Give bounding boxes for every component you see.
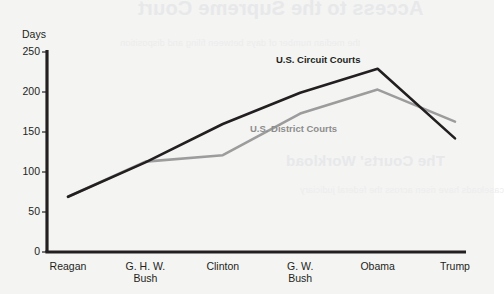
x-tick-label-trump: Trump [410,260,500,272]
x-tick-label-line: Bush [255,272,345,284]
y-tick-label-250: 250 [6,45,40,57]
x-tick-label-line: Trump [410,260,500,272]
series-line-u-s-district-courts [68,90,455,197]
y-tick-label-100: 100 [6,165,40,177]
x-tick-label-line: Bush [100,272,190,284]
y-axis-title: Days [22,28,46,40]
y-tick-label-0: 0 [6,245,40,257]
y-tick-label-50: 50 [6,205,40,217]
y-tick-label-150: 150 [6,125,40,137]
y-tick-label-200: 200 [6,85,40,97]
chart-axes [45,50,466,252]
series-label-circuit-courts: U.S. Circuit Courts [276,54,360,65]
series-label-district-courts: U.S. District Courts [250,123,337,134]
